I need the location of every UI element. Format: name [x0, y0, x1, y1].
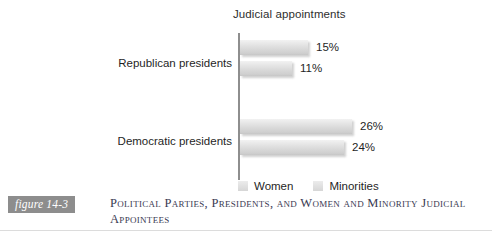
bar-value-republican-women: 15% [316, 40, 339, 55]
chart-title: Judicial appointments [233, 8, 346, 20]
legend-item-minorities: Minorities [313, 180, 378, 192]
legend-swatch-minorities-icon [313, 181, 323, 191]
bar-value-democratic-women: 26% [360, 119, 383, 134]
figure-caption-text: Political Parties, Presidents, and Women… [110, 195, 490, 227]
bar-row-republican-minorities: 11% [240, 61, 492, 76]
legend-swatch-women-icon [238, 181, 248, 191]
bar-row-democratic-women: 26% [240, 119, 492, 134]
bar-row-republican-women: 15% [240, 40, 492, 55]
bar-value-republican-minorities: 11% [300, 61, 322, 76]
bar-democratic-minorities [240, 140, 344, 155]
bar-row-democratic-minorities: 24% [240, 140, 492, 155]
caption-divider [0, 230, 492, 231]
figure-number-badge: figure 14-3 [8, 196, 75, 213]
figure-caption-block: figure 14-3 Political Parties, President… [0, 194, 492, 240]
figure-chart: Judicial appointments Republican preside… [0, 0, 492, 196]
bar-republican-minorities [240, 61, 292, 76]
category-label-republican: Republican presidents [0, 57, 232, 69]
legend-label-women: Women [254, 180, 293, 192]
bar-republican-women [240, 40, 308, 55]
legend-item-women: Women [238, 180, 293, 192]
category-axis-line [238, 33, 240, 180]
bar-value-democratic-minorities: 24% [352, 140, 375, 155]
legend-label-minorities: Minorities [329, 180, 378, 192]
chart-legend: Women Minorities [238, 180, 379, 192]
category-label-democratic: Democratic presidents [0, 135, 232, 147]
bar-democratic-women [240, 119, 352, 134]
